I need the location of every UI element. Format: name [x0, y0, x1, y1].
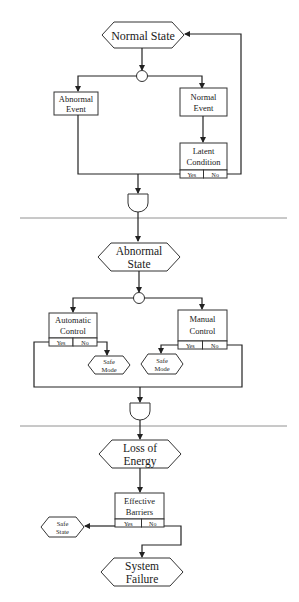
no-label: No — [211, 343, 218, 349]
no-label: No — [212, 172, 219, 178]
node-label-line2: Event — [66, 104, 86, 114]
and-gate-2 — [130, 403, 150, 420]
node-label-line1: Automatic — [55, 315, 91, 325]
node-label-line2: Control — [60, 326, 87, 336]
node-label-line1: Loss of — [123, 442, 157, 454]
and-gate-1 — [128, 194, 148, 212]
node-safe-mode-left: Safe Mode — [88, 356, 130, 374]
node-label-line1: Abnormal — [116, 245, 163, 257]
edge-manual-yes-to-safe-mode — [161, 345, 178, 353]
node-effective-barriers: Effective Barriers Yes No — [115, 493, 164, 527]
edge-split-to-normal-event — [148, 76, 203, 88]
node-label: Normal State — [111, 29, 175, 43]
node-latent-condition: Latent Condition Yes No — [180, 143, 227, 178]
node-label-line1: Safe — [57, 520, 69, 527]
flowchart-canvas: Normal State Abnormal Event Normal Event… — [0, 0, 299, 602]
node-label-line2: Control — [190, 326, 217, 336]
node-label-line2: Event — [194, 103, 214, 113]
edge-automatic-no-to-safe-mode — [97, 342, 107, 355]
node-system-failure: System Failure — [101, 558, 183, 586]
node-label-line1: Effective — [124, 496, 155, 506]
edge-barriers-no-to-system-failure — [142, 526, 181, 557]
node-label-line1: Manual — [190, 314, 217, 324]
edge-split-to-automatic — [73, 298, 134, 312]
node-normal-event: Normal Event — [180, 88, 227, 116]
edge-split-to-manual — [145, 298, 203, 309]
split-junction-circle-2 — [134, 293, 145, 304]
node-normal-state: Normal State — [102, 22, 184, 48]
node-automatic-control: Automatic Control Yes No — [49, 313, 97, 346]
node-label-line2: Condition — [186, 157, 221, 167]
yes-label: Yes — [124, 521, 133, 527]
node-label-line1: Abnormal — [59, 94, 94, 104]
node-label-line2: Mode — [154, 365, 169, 372]
node-safe-mode-right: Safe Mode — [141, 354, 183, 374]
edge-merge-to-and1 — [78, 115, 180, 174]
edge-split-to-abnormal-event — [78, 76, 137, 91]
node-loss-of-energy: Loss of Energy — [99, 440, 181, 468]
yes-label: Yes — [57, 340, 66, 346]
node-label-line2: Energy — [123, 455, 156, 468]
no-label: No — [149, 521, 156, 527]
node-label-line1: Safe — [156, 357, 168, 364]
yes-label: Yes — [187, 172, 196, 178]
node-label-line2: Barriers — [126, 507, 153, 517]
node-abnormal-state: Abnormal State — [98, 243, 180, 271]
node-label-line2: State — [56, 528, 69, 535]
split-junction-circle — [137, 71, 148, 82]
node-label-line2: Failure — [126, 573, 159, 585]
node-label-line1: Normal — [191, 92, 218, 102]
node-label-line1: Latent — [193, 146, 215, 156]
node-manual-control: Manual Control Yes No — [178, 310, 227, 349]
node-label-line2: Mode — [101, 366, 116, 373]
no-label: No — [81, 340, 88, 346]
yes-label: Yes — [186, 343, 195, 349]
node-label-line2: State — [128, 258, 151, 270]
node-label-line1: System — [125, 560, 159, 573]
node-safe-state: Safe State — [41, 517, 84, 537]
node-label-line1: Safe — [103, 358, 115, 365]
node-abnormal-event: Abnormal Event — [54, 92, 98, 115]
